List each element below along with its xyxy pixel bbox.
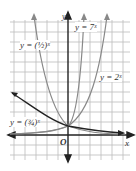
origin-label: O — [60, 137, 67, 147]
curve-label-half: y = (½)ˣ — [20, 40, 50, 50]
x-axis-label: x — [125, 138, 129, 148]
curve-label-seven: y = 7ˣ — [75, 22, 97, 32]
y-axis-label: y — [62, 12, 66, 22]
curve-label-two: y = 2ˣ — [100, 72, 122, 82]
graph-canvas — [0, 0, 136, 171]
axes — [8, 12, 134, 162]
curve-label-three-quarters: y = (¾)ˣ — [10, 117, 40, 127]
